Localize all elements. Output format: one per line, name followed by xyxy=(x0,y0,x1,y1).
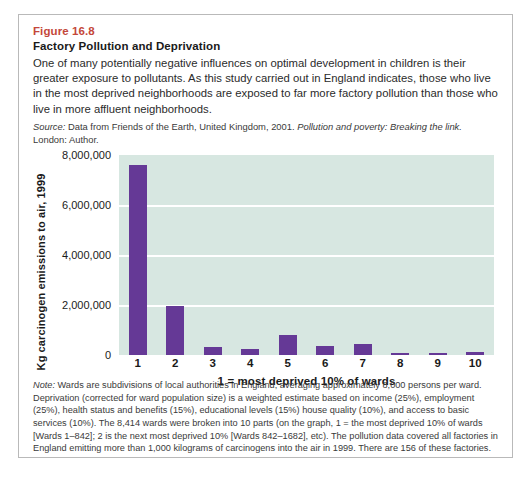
figure-description: One of many potentially negative influen… xyxy=(33,56,498,117)
x-tick-label: 5 xyxy=(269,357,307,369)
y-axis-ticks: 8,000,000 6,000,000 4,000,000 2,000,000 xyxy=(49,155,115,355)
source-label: Source: xyxy=(33,121,65,132)
bar-slot xyxy=(119,155,157,355)
bar-series xyxy=(119,155,494,355)
figure-box: Figure 16.8 Factory Pollution and Depriv… xyxy=(18,14,513,458)
bar-slot xyxy=(344,155,382,355)
y-tick-label: 8,000,000 xyxy=(62,149,111,160)
bar-slot xyxy=(269,155,307,355)
bar-slot xyxy=(307,155,345,355)
note-text: Wards are subdivisions of local authorit… xyxy=(33,380,498,453)
y-tick-label: 2,000,000 xyxy=(62,299,111,310)
figure-title: Factory Pollution and Deprivation xyxy=(33,40,498,52)
bar-slot xyxy=(194,155,232,355)
bar xyxy=(129,165,147,355)
figure-source: Source: Data from Friends of the Earth, … xyxy=(33,120,498,146)
figure-note: Note: Wards are subdivisions of local au… xyxy=(33,379,499,455)
source-title: Pollution and poverty: Breaking the link… xyxy=(297,121,462,132)
bar-slot xyxy=(457,155,495,355)
bar xyxy=(241,349,259,355)
bar-slot xyxy=(419,155,457,355)
bar-slot xyxy=(232,155,270,355)
x-tick-label: 2 xyxy=(157,357,195,369)
x-tick-label: 9 xyxy=(419,357,457,369)
x-tick-label: 6 xyxy=(307,357,345,369)
bar xyxy=(204,347,222,355)
bar xyxy=(316,346,334,355)
x-tick-label: 8 xyxy=(382,357,420,369)
x-axis-ticks: 12345678910 xyxy=(119,357,494,369)
x-tick-label: 7 xyxy=(344,357,382,369)
y-axis-title: Kg carcinogen emissions to air, 1999 xyxy=(35,169,49,375)
y-tick-label: 4,000,000 xyxy=(62,249,111,260)
note-label: Note: xyxy=(33,380,55,390)
source-text-before: Data from Friends of the Earth, United K… xyxy=(65,121,297,132)
bar xyxy=(466,352,484,355)
x-tick-label: 3 xyxy=(194,357,232,369)
x-tick-label: 1 xyxy=(119,357,157,369)
bar-chart: Kg carcinogen emissions to air, 1999 8,0… xyxy=(33,155,498,387)
bar xyxy=(279,335,297,355)
bar-slot xyxy=(157,155,195,355)
x-tick-label: 10 xyxy=(457,357,495,369)
bar xyxy=(391,353,409,355)
source-text-after: London: Author. xyxy=(33,134,99,145)
figure-number: Figure 16.8 xyxy=(33,25,498,37)
bar-slot xyxy=(382,155,420,355)
plot-area xyxy=(119,155,494,355)
bar xyxy=(354,344,372,355)
y-tick-label-zero: 0 xyxy=(49,349,115,361)
bar xyxy=(166,306,184,355)
bar xyxy=(429,353,447,355)
x-tick-label: 4 xyxy=(232,357,270,369)
y-tick-label: 6,000,000 xyxy=(62,199,111,210)
